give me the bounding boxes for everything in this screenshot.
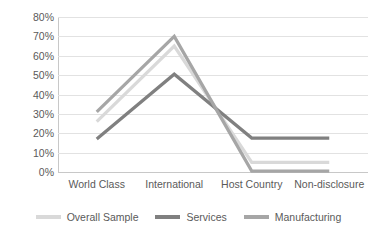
y-axis-tick-label: 30% xyxy=(4,109,54,120)
legend-label: Manufacturing xyxy=(275,211,342,223)
y-axis-tick-label: 10% xyxy=(4,148,54,159)
legend-item[interactable]: Overall Sample xyxy=(36,211,139,223)
y-axis-tick-label: 40% xyxy=(4,90,54,101)
y-axis-tick-labels: 80%70%60%50%40%30%20%10%0% xyxy=(0,0,54,235)
legend-item[interactable]: Services xyxy=(155,211,226,223)
y-axis-tick-label: 20% xyxy=(4,128,54,139)
legend-label: Overall Sample xyxy=(67,211,139,223)
y-axis-tick-label: 50% xyxy=(4,70,54,81)
x-axis-tick-label: World Class xyxy=(58,177,136,193)
x-axis-tick-label: Non-disclosure xyxy=(291,177,369,193)
y-axis-tick-label: 80% xyxy=(4,12,54,23)
plot-area xyxy=(58,17,368,172)
y-axis-tick-label: 60% xyxy=(4,51,54,62)
legend-swatch-icon xyxy=(155,215,180,219)
x-axis-tick-label: Host Country xyxy=(213,177,291,193)
y-axis-tick-label: 70% xyxy=(4,31,54,42)
legend-item[interactable]: Manufacturing xyxy=(244,211,342,223)
y-axis-tick-label: 0% xyxy=(4,167,54,178)
chart-legend: Overall SampleServicesManufacturing xyxy=(0,206,377,228)
x-axis-tick-labels: World ClassInternationalHost CountryNon-… xyxy=(58,177,368,193)
line-chart: 80%70%60%50%40%30%20%10%0% World ClassIn… xyxy=(0,0,377,235)
legend-label: Services xyxy=(186,211,226,223)
series-lines xyxy=(58,17,368,172)
series-line xyxy=(97,36,330,171)
x-axis-tick-label: International xyxy=(136,177,214,193)
legend-swatch-icon xyxy=(36,215,61,219)
legend-swatch-icon xyxy=(244,215,269,219)
